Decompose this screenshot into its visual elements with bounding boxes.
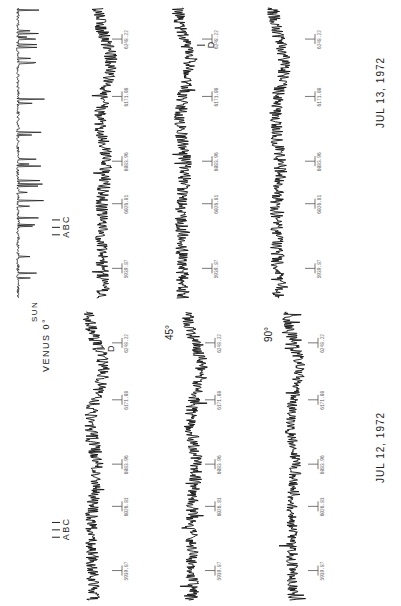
tick-label: 6026.81 — [214, 195, 219, 214]
tick-label: 6171.08 — [317, 87, 322, 106]
trace-sun-0 — [17, 8, 45, 298]
tick-label: 6083.96 — [317, 152, 322, 171]
trace-venus-45--0 — [172, 8, 197, 298]
tick-label: 5939.87 — [320, 561, 325, 580]
trace-venus-90--0 — [268, 8, 291, 298]
tick-label: 5939.87 — [217, 561, 222, 580]
tick-label: 6026.81 — [320, 497, 325, 516]
traces-group — [17, 8, 306, 600]
tick-label: 6083.96 — [320, 455, 325, 474]
trace-90--1 — [279, 312, 306, 600]
spectra-figure: 5939.876026.816083.966171.086248.225939.… — [0, 0, 401, 606]
tick-label: 6248.22 — [124, 334, 129, 353]
line-marker-label-b: B — [61, 224, 71, 230]
tick-label: 5939.87 — [124, 259, 129, 278]
label-date-bottom: JUL 12, 1972 — [375, 412, 386, 483]
tick-label: 6171.08 — [214, 87, 219, 106]
label-90: 90° — [263, 327, 274, 342]
tick-label: 6083.96 — [124, 455, 129, 474]
tick-label: 6083.96 — [217, 455, 222, 474]
tick-label: 6171.08 — [320, 391, 325, 410]
tick-label: 5939.87 — [214, 259, 219, 278]
line-marker-label-a: A — [61, 232, 71, 238]
tick-label: 5939.87 — [317, 259, 322, 278]
trace-venus-0--1 — [83, 312, 109, 600]
tick-label: 6248.22 — [317, 30, 322, 49]
tick-label: 5939.87 — [124, 561, 129, 580]
line-marker-label-d: D — [106, 345, 116, 352]
tick-label: 6026.81 — [217, 497, 222, 516]
trace-45--1 — [180, 312, 207, 600]
label-45: 45° — [164, 325, 175, 340]
tick-label: 6248.22 — [217, 334, 222, 353]
line-marker-label-c: C — [61, 518, 71, 525]
line-marker-label-b: B — [61, 527, 71, 533]
tick-label: 6083.96 — [124, 152, 129, 171]
label-date-top: JUL 13, 1972 — [375, 57, 386, 128]
tick-label: 6171.08 — [124, 391, 129, 410]
tick-label: 6026.81 — [124, 497, 129, 516]
tick-label: 6248.22 — [124, 30, 129, 49]
label-venus-0: VENUS 0° — [41, 318, 51, 372]
trace-venus-0--0 — [92, 8, 117, 298]
tick-label: 6248.22 — [320, 334, 325, 353]
label-sun: SUN — [30, 301, 39, 322]
tick-label: 6026.81 — [317, 195, 322, 214]
tick-label: 6083.96 — [214, 152, 219, 171]
line-marker-label-d: D — [206, 41, 216, 48]
tick-label: 6171.08 — [124, 87, 129, 106]
tick-label: 6171.08 — [217, 391, 222, 410]
tick-label: 6026.81 — [124, 195, 129, 214]
line-marker-label-c: C — [61, 216, 71, 223]
line-marker-label-a: A — [61, 534, 71, 540]
